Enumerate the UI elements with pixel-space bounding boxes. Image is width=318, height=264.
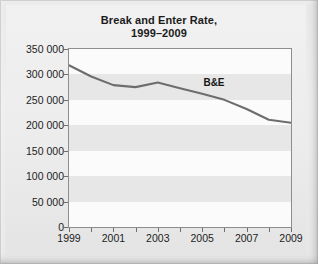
x-axis-tick-label: 2001 bbox=[102, 232, 125, 244]
y-axis-tick-label: 250 000 bbox=[26, 94, 64, 106]
y-axis-tick bbox=[64, 227, 68, 228]
x-axis-tick-label: 2009 bbox=[279, 232, 302, 244]
y-axis-tick-label: 300 000 bbox=[26, 68, 64, 80]
x-axis-tick-label: 2003 bbox=[146, 232, 169, 244]
x-axis-tick bbox=[69, 228, 70, 232]
x-axis-tick bbox=[224, 228, 225, 232]
x-axis-tick bbox=[136, 228, 137, 232]
y-axis-tick bbox=[64, 151, 68, 152]
y-axis-tick-label: 200 000 bbox=[26, 119, 64, 131]
x-axis-tick bbox=[158, 228, 159, 232]
x-axis-tick bbox=[291, 228, 292, 232]
x-axis-tick bbox=[247, 228, 248, 232]
y-axis-tick bbox=[64, 74, 68, 75]
series-line-be bbox=[69, 65, 291, 122]
y-axis-tick bbox=[64, 176, 68, 177]
chart-title-line2: 1999–2009 bbox=[0, 27, 318, 40]
y-axis-tick bbox=[64, 125, 68, 126]
x-axis-tick-label: 1999 bbox=[57, 232, 80, 244]
y-axis-tick-label: 100 000 bbox=[26, 170, 64, 182]
y-axis-tick bbox=[64, 100, 68, 101]
chart-title: Break and Enter Rate, 1999–2009 bbox=[0, 14, 318, 40]
x-axis-tick-label: 2005 bbox=[191, 232, 214, 244]
x-axis-labels: 199920012003200520072009 bbox=[68, 232, 292, 248]
x-axis-tick bbox=[180, 228, 181, 232]
chart-title-line1: Break and Enter Rate, bbox=[101, 14, 217, 26]
x-axis-tick bbox=[113, 228, 114, 232]
data-line-svg bbox=[69, 49, 291, 227]
y-axis-labels: 050 000100 000150 000200 000250 000300 0… bbox=[0, 48, 64, 228]
x-axis-tick bbox=[202, 228, 203, 232]
y-axis-tick bbox=[64, 202, 68, 203]
y-axis-tick-label: 50 000 bbox=[32, 196, 64, 208]
y-axis-tick bbox=[64, 49, 68, 50]
plot-area bbox=[68, 48, 292, 228]
x-axis-tick bbox=[269, 228, 270, 232]
y-axis-tick-label: 350 000 bbox=[26, 43, 64, 55]
series-annotation-be: B&E bbox=[203, 77, 224, 88]
page-canvas: Break and Enter Rate, 1999–2009 050 0001… bbox=[0, 0, 318, 264]
x-axis-tick bbox=[91, 228, 92, 232]
y-axis-tick-label: 150 000 bbox=[26, 145, 64, 157]
x-axis-tick-label: 2007 bbox=[235, 232, 258, 244]
